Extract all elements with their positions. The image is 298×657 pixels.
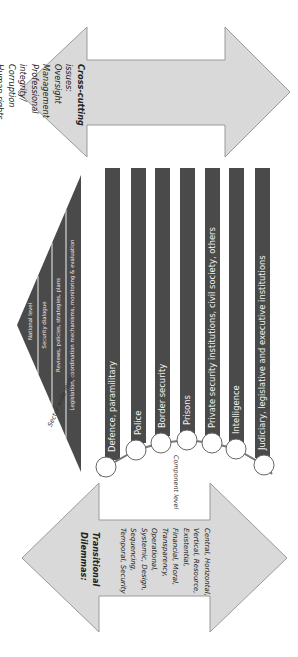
component-node <box>151 433 171 453</box>
component-label: Border security <box>155 348 170 428</box>
cross-cutting-item: Oversight <box>52 64 64 134</box>
component-label: Police <box>131 375 146 435</box>
component-node <box>126 440 146 460</box>
dilemma-item: Transparency, <box>160 528 171 608</box>
dilemma-item: Central, Horizontal, <box>202 528 213 608</box>
sector-level-label: Reviews, policies, strategies, plans <box>52 270 65 380</box>
cross-cutting-subtitle: issues: <box>63 64 75 134</box>
security-sector-diagram: Cross-cutting issues: Oversight Manageme… <box>0 0 298 657</box>
cross-cutting-item: Corruption <box>6 64 18 134</box>
dilemma-item: Existential, <box>181 528 192 608</box>
cross-cutting-item: Management <box>40 64 52 134</box>
dilemma-item: Operational, <box>149 528 160 608</box>
dilemma-item: Temporal, Security <box>118 528 129 608</box>
dilemmas-title: Transitional <box>90 532 102 592</box>
dilemmas-subtitle: Dilemmas: <box>78 532 90 592</box>
component-node <box>254 455 274 475</box>
component-node <box>96 457 116 477</box>
cross-cutting-text: Cross-cutting issues: Oversight Manageme… <box>0 64 86 134</box>
component-label: Intelligence <box>229 354 244 434</box>
component-node <box>177 430 197 450</box>
dilemma-item: Sequencing, <box>128 528 139 608</box>
dilemmas-items-block: Central, Horizontal, Vertical, Resource,… <box>118 528 213 608</box>
cross-cutting-item: Human rights <box>0 64 6 134</box>
dilemma-item: Vertical, Resource, <box>191 528 202 608</box>
component-node <box>202 433 222 453</box>
dilemmas-title-block: Transitional Dilemmas: <box>78 532 101 592</box>
component-node <box>226 439 246 459</box>
sector-level-label: National level <box>24 304 37 340</box>
component-label: Private security institutions, civil soc… <box>205 178 220 428</box>
component-label: Prisons <box>180 365 195 425</box>
component-label: Defence, paramilitary <box>105 342 120 452</box>
cross-cutting-title: Cross-cutting <box>75 64 87 134</box>
dilemma-item: Financial, Moral, <box>170 528 181 608</box>
dilemma-item: Systemic, Design, <box>139 528 150 608</box>
sector-level-label: Security dialogue <box>38 290 51 360</box>
component-label: Judiciary, legislative and executive ins… <box>255 190 270 450</box>
cross-cutting-item: integrity/ <box>17 64 29 134</box>
component-level-label: Component level <box>172 455 180 509</box>
cross-cutting-item: Professional <box>29 64 41 134</box>
